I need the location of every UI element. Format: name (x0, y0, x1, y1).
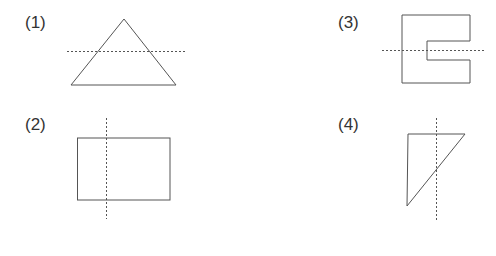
rectangle-shape (78, 138, 171, 200)
c-shape (402, 15, 470, 83)
figure-1 (67, 19, 186, 85)
figure-4 (407, 118, 465, 220)
figure-2 (78, 118, 171, 219)
figures-canvas (0, 0, 496, 256)
figure-3 (382, 15, 485, 83)
